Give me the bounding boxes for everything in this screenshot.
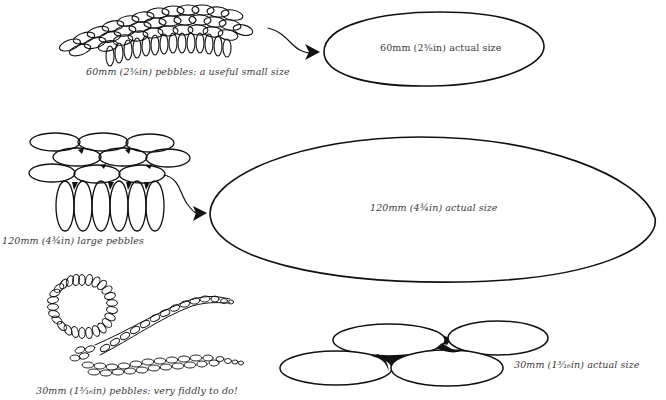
- tiny-pebble-caption: 30mm (1³⁄₁₆in) pebbles: very fiddly to d…: [36, 385, 238, 396]
- actual-size-cluster-30mm: [280, 321, 548, 386]
- pebble-illustration: [0, 0, 666, 400]
- small-actual-size-text: 60mm (2⅜in) actual size: [380, 42, 501, 53]
- small-pebble-band: [58, 4, 254, 66]
- large-pebble-cluster: [29, 133, 190, 231]
- small-pebble-caption: 60mm (2⅜in) pebbles: a useful small size: [86, 66, 290, 77]
- curved-arrow-icon: [164, 175, 207, 221]
- small-actual-size-caption: 60mm (2⅜in) actual size: [380, 42, 501, 53]
- large-pebble-caption: 120mm (4¾in) large pebbles: [2, 235, 144, 246]
- tiny-actual-size-caption: 30mm (1³⁄₁₆in) actual size: [514, 359, 640, 370]
- curved-arrow-icon: [268, 28, 320, 60]
- tiny-pebble-ring: [47, 274, 118, 339]
- large-actual-size-caption: 120mm (4¾in) actual size: [370, 202, 498, 213]
